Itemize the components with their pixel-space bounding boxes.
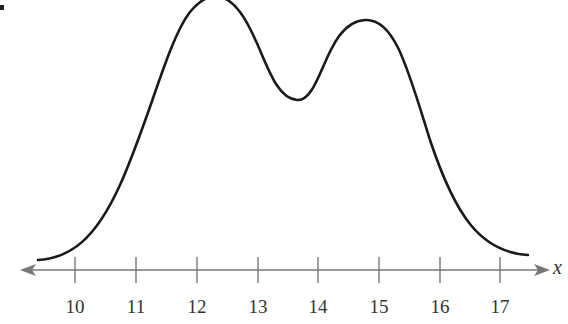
x-tick-label: 10 — [55, 296, 95, 318]
x-tick-label: 12 — [177, 296, 217, 318]
x-tick-label: 15 — [359, 296, 399, 318]
x-tick-label: 16 — [420, 296, 460, 318]
x-tick-label: 14 — [298, 296, 338, 318]
x-tick-label: 11 — [116, 296, 156, 318]
x-tick-label: 17 — [480, 296, 520, 318]
x-axis-variable-label: x — [553, 256, 562, 279]
chart-canvas — [0, 0, 568, 324]
x-tick-label: 13 — [238, 296, 278, 318]
density-curve — [38, 0, 528, 260]
